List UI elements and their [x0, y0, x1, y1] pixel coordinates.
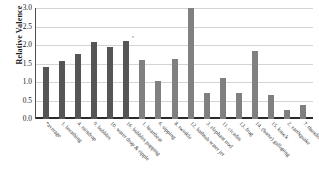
y-axis-tick-label: 1.0	[8, 78, 32, 86]
x-label-slot: 16. bubbles popping	[118, 121, 134, 187]
bar-slot	[70, 8, 86, 119]
bar-slot	[263, 8, 279, 119]
bar-slot	[118, 8, 134, 119]
bar[interactable]	[204, 93, 210, 119]
plot-area	[35, 8, 313, 119]
y-axis-tick-label: 1.5	[8, 60, 32, 68]
bar-slot	[167, 8, 183, 119]
bar[interactable]	[236, 93, 242, 119]
x-label-slot: 1. breathing	[53, 121, 69, 187]
bar[interactable]	[252, 51, 258, 119]
bar-slot	[215, 8, 231, 119]
x-label-slot: 1. heartbeat	[134, 121, 150, 187]
x-label-slot: 3. elephant trod	[198, 121, 214, 187]
y-axis-tick-label: 3.0	[8, 4, 32, 12]
y-axis-tick-label: 0.5	[8, 97, 32, 105]
x-label-slot: 4. raindrop	[69, 121, 85, 187]
x-label-slot: *average	[37, 121, 53, 187]
bar-slot	[54, 8, 70, 119]
bar[interactable]	[59, 61, 65, 119]
bar[interactable]	[188, 8, 194, 119]
bar-slot	[279, 8, 295, 119]
x-axis-category-labels: *average1. breathing4. raindrop9. bubble…	[35, 121, 313, 187]
bar-slot	[199, 8, 215, 119]
x-label-slot: 14. (horse) galloping	[247, 121, 263, 187]
bar[interactable]	[155, 81, 161, 119]
bar-slot	[102, 8, 118, 119]
bar-slot	[231, 8, 247, 119]
x-label-slot: 11. cicadas	[214, 121, 230, 187]
bar[interactable]	[123, 41, 129, 119]
bar[interactable]	[139, 60, 145, 119]
bar[interactable]	[220, 78, 226, 119]
y-axis-tick-label: 2.5	[8, 23, 32, 31]
y-axis-tick-labels: 3.02.52.01.51.00.50.0	[8, 8, 32, 119]
bar[interactable]	[268, 95, 274, 119]
bar[interactable]	[91, 42, 97, 119]
x-label-slot: 12. bathtub water jet	[182, 121, 198, 187]
bar[interactable]	[300, 105, 306, 119]
bar-slot	[295, 8, 311, 119]
bar-slot	[150, 8, 166, 119]
bar[interactable]	[284, 110, 290, 119]
bar-slot	[38, 8, 54, 119]
x-label-slot: 2. earthquake	[279, 121, 295, 187]
bar-chart: Relative Valence 3.02.52.01.51.00.50.0 *…	[0, 0, 319, 189]
x-label-slot: 8. twinkle	[166, 121, 182, 187]
bar[interactable]	[43, 67, 49, 119]
x-label-slot: 10. water drop & ripple	[102, 121, 118, 187]
x-axis-category-label: 7. thunder	[302, 120, 319, 140]
bar-slot	[247, 8, 263, 119]
y-axis-tick-label: 2.0	[8, 41, 32, 49]
bar[interactable]	[172, 59, 178, 119]
bar-slot	[86, 8, 102, 119]
bars-layer	[36, 8, 313, 119]
x-label-slot: 7. thunder	[295, 121, 311, 187]
x-label-slot: 6. sipping	[150, 121, 166, 187]
x-label-slot: 13. frog	[231, 121, 247, 187]
bar[interactable]	[75, 54, 81, 119]
y-axis-tick-label: 0.0	[8, 115, 32, 123]
bar[interactable]	[107, 47, 113, 119]
x-label-slot: 15. knock	[263, 121, 279, 187]
scan-artifact-speck	[132, 36, 134, 38]
x-label-slot: 9. bubbles	[85, 121, 101, 187]
bar-slot	[134, 8, 150, 119]
bar-slot	[183, 8, 199, 119]
